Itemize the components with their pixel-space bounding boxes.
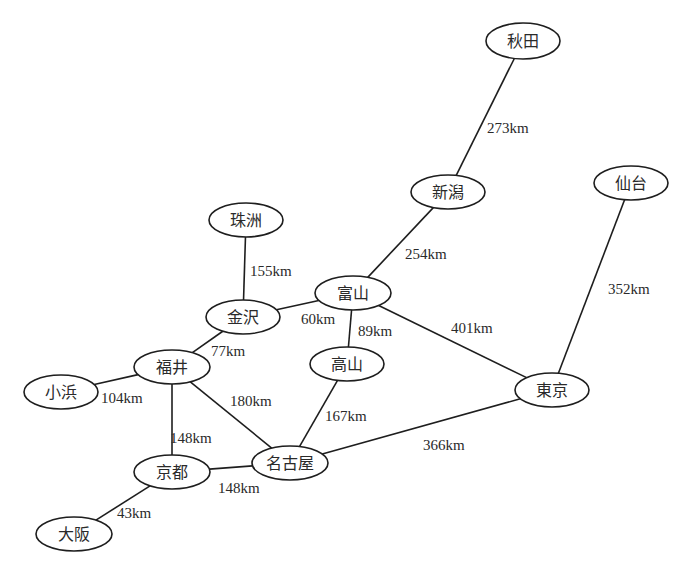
distance-label: 89km	[358, 323, 393, 339]
distance-label: 155km	[250, 263, 292, 279]
city-node-sendai: 仙台	[594, 166, 668, 200]
distance-label: 148km	[170, 430, 212, 446]
route-graph: 273km254km352km155km60km89km401km77km104…	[0, 0, 685, 572]
city-node-obama: 小浜	[24, 375, 98, 409]
city-node-akita: 秋田	[486, 23, 560, 59]
edge-toyama-takayama	[348, 310, 351, 347]
city-node-niigata: 新潟	[411, 175, 485, 209]
nodes-layer: 秋田新潟仙台珠洲富山金沢高山福井小浜東京名古屋京都大阪	[24, 23, 668, 551]
distance-label: 401km	[451, 320, 493, 336]
distance-label: 366km	[423, 437, 465, 453]
city-label: 名古屋	[266, 454, 314, 473]
city-label: 福井	[156, 358, 188, 377]
distance-label: 167km	[325, 408, 367, 424]
city-label: 秋田	[507, 32, 539, 51]
edge-obama-fukui	[94, 375, 138, 385]
edge-kanazawa-toyama	[276, 300, 318, 309]
edge-suzu-kanazawa	[244, 237, 246, 300]
distance-label: 254km	[405, 246, 447, 262]
city-node-fukui: 福井	[134, 350, 210, 384]
city-node-kanazawa: 金沢	[206, 300, 280, 334]
city-node-suzu: 珠洲	[209, 203, 283, 237]
edge-kyoto-nagoya	[209, 466, 252, 469]
city-label: 金沢	[227, 308, 259, 327]
city-node-tokyo: 東京	[515, 373, 589, 407]
city-label: 小浜	[45, 383, 77, 402]
city-label: 富山	[337, 284, 369, 303]
edge-nagoya-tokyo	[322, 399, 520, 454]
distance-label: 180km	[230, 393, 272, 409]
distance-label: 352km	[608, 281, 650, 297]
city-node-nagoya: 名古屋	[252, 446, 328, 480]
city-node-osaka: 大阪	[36, 517, 112, 551]
distance-label: 148km	[218, 480, 260, 496]
distance-label: 60km	[301, 311, 336, 327]
city-label: 高山	[331, 355, 363, 374]
distance-label: 43km	[117, 505, 152, 521]
edge-akita-niigata	[456, 58, 514, 175]
city-label: 東京	[536, 381, 568, 400]
city-label: 京都	[156, 463, 188, 482]
city-label: 仙台	[615, 174, 647, 193]
city-label: 新潟	[432, 183, 464, 202]
city-node-kyoto: 京都	[134, 455, 210, 489]
edge-niigata-toyama	[368, 208, 434, 278]
distance-label: 104km	[101, 390, 143, 406]
distance-label: 77km	[211, 343, 246, 359]
city-label: 珠洲	[230, 211, 262, 230]
city-label: 大阪	[58, 525, 90, 544]
city-node-toyama: 富山	[315, 276, 391, 310]
edge-toyama-tokyo	[379, 306, 527, 378]
city-node-takayama: 高山	[310, 347, 384, 381]
distance-label: 273km	[487, 120, 529, 136]
